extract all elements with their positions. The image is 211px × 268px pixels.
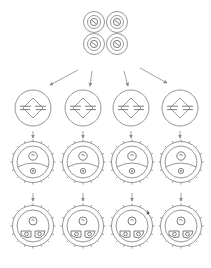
marker-dot: [147, 212, 150, 215]
down-arrows-stage-2: [33, 131, 180, 138]
dividing-cell-2: [65, 90, 101, 126]
arrow-to-column-2: [90, 71, 92, 86]
row-dividing-cells: [15, 90, 198, 126]
dividing-cell-3: [113, 90, 149, 126]
source-cell-4: [107, 34, 128, 55]
arrow-to-column-4: [140, 68, 167, 83]
stage-3-cell-1: [11, 140, 56, 185]
stage-4-cell-4: [159, 204, 204, 249]
stage-4-cell-3: [110, 204, 155, 249]
stage-4-cell-2: [61, 204, 106, 249]
cell-development-diagram: [0, 0, 211, 268]
dividing-cell-4: [162, 90, 198, 126]
row-stage-3-cells: [11, 140, 204, 185]
arrow-to-column-1: [50, 70, 78, 85]
source-cell-3: [84, 34, 105, 55]
stage-3-cell-2: [61, 140, 106, 185]
stage-4-cell-1: [11, 204, 56, 249]
row-stage-4-cells: [11, 204, 204, 249]
source-cell-cluster: [84, 12, 128, 55]
dividing-cell-1: [15, 90, 51, 126]
fan-out-arrows: [50, 68, 167, 86]
down-arrows-stage-3: [33, 193, 181, 201]
stage-3-cell-4: [159, 140, 204, 185]
source-cell-2: [107, 12, 128, 33]
stage-3-cell-3: [110, 140, 155, 185]
arrow-to-column-3: [124, 71, 128, 86]
source-cell-1: [84, 12, 105, 33]
